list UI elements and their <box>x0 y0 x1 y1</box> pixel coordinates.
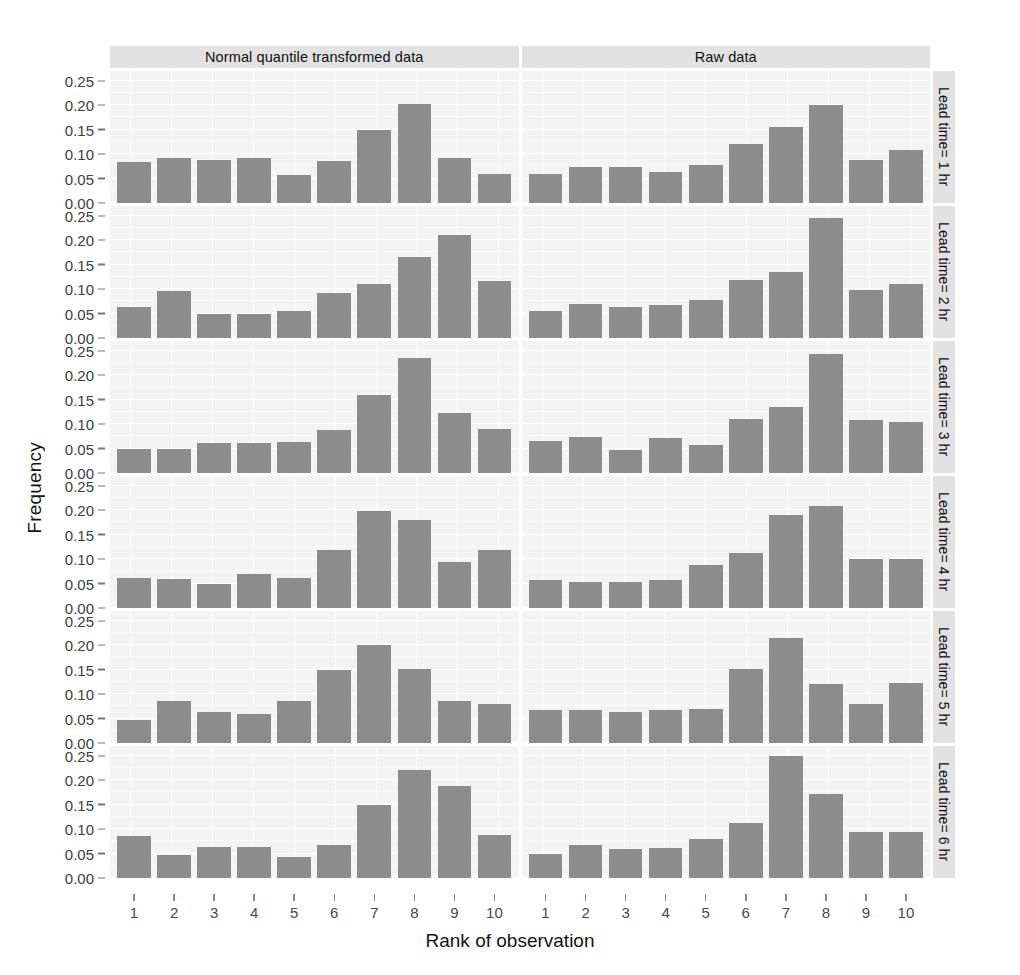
y-tick-label: 0.05 <box>65 170 94 187</box>
x-tick-3: 3 <box>606 894 646 928</box>
bar-rank-7 <box>357 645 391 743</box>
x-tick-mark <box>293 894 295 901</box>
panel-r3-c1 <box>110 341 519 473</box>
bar-slot-3 <box>606 476 646 608</box>
bar-slot-6 <box>314 206 354 338</box>
bar-slot-8 <box>394 341 434 473</box>
y-tick-mark <box>98 804 105 806</box>
y-tick-mark <box>98 374 105 376</box>
y-tick-0.10: 0.10 <box>65 686 105 703</box>
bar-rank-8 <box>809 684 843 743</box>
bar-series <box>110 341 519 473</box>
y-tick-label: 0.15 <box>65 661 94 678</box>
bar-rank-9 <box>849 290 883 338</box>
x-tick-label: 7 <box>782 904 790 921</box>
bar-rank-5 <box>689 300 723 338</box>
bar-slot-10 <box>886 71 926 203</box>
x-tick-label: 4 <box>661 904 669 921</box>
x-tick-1: 1 <box>114 894 154 928</box>
x-ticks-spacer <box>933 894 955 928</box>
x-tick-label: 6 <box>742 904 750 921</box>
y-tick-label: 0.15 <box>65 121 94 138</box>
bar-series <box>522 476 931 608</box>
bar-rank-5 <box>277 701 311 743</box>
y-tick-0.10: 0.10 <box>65 551 105 568</box>
y-tick-0.20: 0.20 <box>65 502 105 519</box>
x-tick-mark <box>545 894 547 901</box>
row-strip-4: Lead time= 4 hr <box>933 476 955 608</box>
bar-rank-9 <box>438 786 472 878</box>
bar-slot-5 <box>274 341 314 473</box>
bar-slot-2 <box>154 476 194 608</box>
y-tick-0.15: 0.15 <box>65 526 105 543</box>
y-tick-0.15: 0.15 <box>65 796 105 813</box>
bar-slot-3 <box>606 746 646 878</box>
bar-slot-5 <box>686 206 726 338</box>
bar-rank-9 <box>438 562 472 608</box>
panel-row-2: Lead time= 2 hr <box>110 206 955 338</box>
bar-rank-8 <box>398 104 432 203</box>
bar-slot-6 <box>726 71 766 203</box>
x-tick-mark <box>665 894 667 901</box>
bar-rank-10 <box>478 835 512 878</box>
bar-rank-6 <box>729 144 763 203</box>
x-tick-label: 10 <box>486 904 503 921</box>
bar-slot-7 <box>766 206 806 338</box>
bar-rank-2 <box>157 291 191 338</box>
bar-rank-1 <box>117 162 151 203</box>
bar-rank-4 <box>237 574 271 608</box>
bar-rank-10 <box>889 150 923 203</box>
bar-slot-1 <box>114 71 154 203</box>
bar-rank-2 <box>569 845 603 878</box>
bar-rank-7 <box>769 407 803 473</box>
bar-rank-6 <box>317 293 351 338</box>
bar-rank-7 <box>769 515 803 608</box>
bar-slot-10 <box>886 341 926 473</box>
panel-row-6: Lead time= 6 hr <box>110 746 955 878</box>
bar-rank-7 <box>769 756 803 878</box>
bar-rank-3 <box>197 584 231 608</box>
bar-rank-8 <box>809 218 843 338</box>
x-tick-mark <box>745 894 747 901</box>
bar-slot-9 <box>434 341 474 473</box>
bar-rank-3 <box>197 314 231 338</box>
bar-slot-5 <box>686 746 726 878</box>
y-tick-mark <box>98 718 105 720</box>
y-tick-mark <box>98 423 105 425</box>
x-tick-9: 9 <box>434 894 474 928</box>
y-tick-mark <box>98 583 105 585</box>
x-tick-mark <box>374 894 376 901</box>
bar-rank-3 <box>609 307 643 338</box>
row-strip-5: Lead time= 5 hr <box>933 611 955 743</box>
bar-rank-3 <box>609 582 643 608</box>
bar-rank-2 <box>157 579 191 608</box>
bar-slot-9 <box>434 206 474 338</box>
bar-slot-4 <box>234 341 274 473</box>
bar-series <box>110 746 519 878</box>
bar-slot-2 <box>566 476 606 608</box>
y-tick-label: 0.25 <box>65 342 94 359</box>
y-tick-0.15: 0.15 <box>65 391 105 408</box>
bar-slot-10 <box>474 341 514 473</box>
bar-rank-4 <box>649 580 683 608</box>
bar-slot-2 <box>566 71 606 203</box>
bar-rank-4 <box>237 443 271 473</box>
bar-slot-8 <box>394 71 434 203</box>
bar-rank-7 <box>357 130 391 203</box>
y-tick-label: 0.10 <box>65 821 94 838</box>
y-tick-label: 0.20 <box>65 502 94 519</box>
bar-slot-2 <box>154 71 194 203</box>
bar-series <box>110 476 519 608</box>
bar-rank-9 <box>438 413 472 473</box>
bar-slot-1 <box>114 746 154 878</box>
column-strip-1: Normal quantile transformed data <box>110 46 519 68</box>
bar-slot-6 <box>726 476 766 608</box>
bar-rank-1 <box>529 311 563 338</box>
x-tick-mark <box>334 894 336 901</box>
bar-rank-4 <box>237 314 271 338</box>
bar-rank-10 <box>889 832 923 878</box>
bar-rank-10 <box>478 429 512 473</box>
bar-slot-10 <box>474 71 514 203</box>
bar-slot-4 <box>234 746 274 878</box>
y-tick-label: 0.05 <box>65 710 94 727</box>
